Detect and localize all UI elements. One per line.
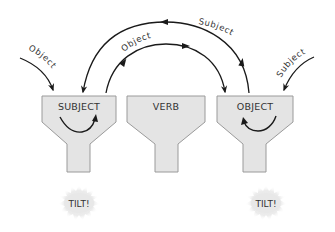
- tilt-label-subject: TILT!: [67, 199, 89, 209]
- incoming-object-arrow: Object: [20, 43, 59, 90]
- incoming-subject-arrow: Subject: [274, 46, 314, 90]
- tilt-label-object: TILT!: [254, 199, 276, 209]
- incoming-subject-label: Subject: [274, 46, 307, 79]
- inner-arc-object-transfer: Object: [106, 30, 225, 93]
- arrowhead-left-icon: [160, 19, 168, 25]
- tilt-burst-object: TILT!: [245, 185, 287, 221]
- outer-arc-label: Subject: [198, 16, 236, 37]
- outer-arc-subject-transfer: Subject: [83, 16, 250, 93]
- funnel-verb: VERB: [127, 96, 205, 172]
- incoming-object-label: Object: [27, 43, 59, 71]
- funnel-verb-label: VERB: [153, 101, 179, 112]
- inner-arc-label: Object: [119, 30, 152, 53]
- tilt-burst-subject: TILT!: [58, 185, 100, 221]
- funnel-object: OBJECT: [217, 96, 293, 172]
- funnel-subject: SUBJECT: [42, 96, 116, 172]
- funnel-object-label: OBJECT: [237, 101, 273, 112]
- word-order-funnel-diagram: Subject Object Object Subject SUBJECT: [0, 0, 335, 232]
- funnel-subject-label: SUBJECT: [58, 101, 100, 112]
